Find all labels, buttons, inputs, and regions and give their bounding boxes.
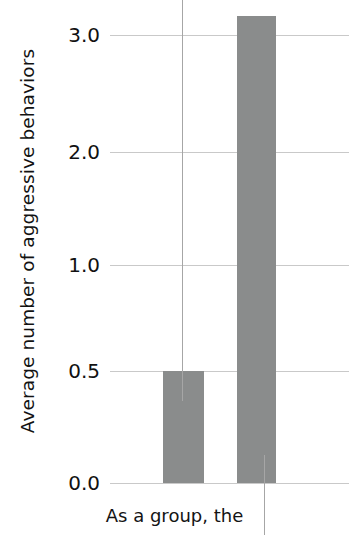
- plot-area: [0, 0, 349, 535]
- chart-caption: As a group, the: [0, 505, 349, 526]
- chart-page: Average number of aggressive behaviors 3…: [0, 0, 349, 535]
- bar-2: [237, 16, 276, 483]
- bar-1: [163, 371, 204, 483]
- leader-line-1: [182, 0, 183, 401]
